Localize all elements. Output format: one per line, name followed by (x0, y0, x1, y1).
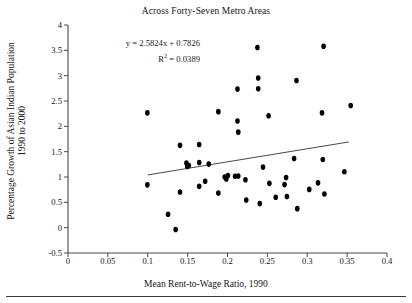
data-point (178, 143, 183, 149)
x-tick-label: 0.15 (180, 256, 195, 266)
data-point (166, 211, 171, 217)
data-point (292, 156, 297, 162)
y-tick-label: 0.5 (40, 197, 62, 207)
data-point (236, 129, 241, 135)
y-tick-label: 3 (40, 71, 62, 81)
data-point (145, 182, 150, 188)
trendline-segment (148, 142, 349, 175)
y-tick-label: 3.5 (40, 45, 62, 55)
data-point (197, 184, 202, 190)
data-point (285, 194, 290, 200)
data-point (173, 227, 178, 233)
x-tick-label: 0.05 (100, 256, 115, 266)
data-point (243, 177, 248, 183)
data-point (273, 194, 278, 200)
data-point (178, 189, 183, 195)
data-point (197, 160, 202, 166)
data-point (226, 173, 231, 179)
x-tick-label: 0.35 (340, 256, 355, 266)
data-point (216, 109, 221, 115)
data-point (261, 164, 266, 170)
data-point (294, 78, 299, 84)
data-point (206, 161, 211, 167)
y-tick-label: 1 (40, 172, 62, 182)
data-point (342, 169, 347, 175)
data-point (203, 179, 208, 185)
x-tick-label: 0.2 (222, 256, 233, 266)
axes (68, 25, 387, 253)
x-tick-label: 0.4 (382, 256, 393, 266)
y-tick-label: 2 (40, 121, 62, 131)
data-point (256, 86, 261, 92)
footer-rule (6, 296, 406, 297)
y-tick-label: 0 (40, 223, 62, 233)
data-point (295, 206, 300, 212)
data-point (267, 181, 272, 187)
trendline (148, 142, 349, 175)
data-point (145, 110, 150, 116)
data-point (322, 191, 327, 197)
data-point (282, 182, 287, 188)
data-point (187, 163, 192, 169)
data-point (216, 190, 221, 196)
data-point (348, 103, 353, 109)
data-point (307, 187, 312, 193)
y-tick-label: 4 (40, 20, 62, 30)
data-point (284, 175, 289, 181)
data-point (235, 86, 240, 92)
data-point (257, 201, 262, 207)
y-tick-label: 1.5 (40, 147, 62, 157)
y-axis-ticks (64, 25, 68, 253)
y-tick-label: -0.5 (40, 248, 62, 258)
x-tick-label: 0.25 (260, 256, 275, 266)
scatter-plot-figure: Across Forty-Seven Metro Areas y = 2.582… (0, 0, 412, 303)
x-tick-label: 0.3 (302, 256, 313, 266)
data-point (321, 43, 326, 49)
data-point (256, 75, 261, 81)
data-point (255, 45, 260, 51)
data-point (320, 110, 325, 116)
data-point (235, 118, 240, 124)
data-point (244, 197, 249, 203)
data-point (236, 173, 241, 179)
y-tick-label: 2.5 (40, 96, 62, 106)
data-point (321, 157, 326, 163)
x-tick-label: 0 (66, 256, 70, 266)
data-point (316, 180, 321, 186)
x-tick-label: 0.1 (142, 256, 153, 266)
data-point (197, 142, 202, 148)
data-point (266, 113, 271, 119)
data-points (145, 43, 353, 232)
